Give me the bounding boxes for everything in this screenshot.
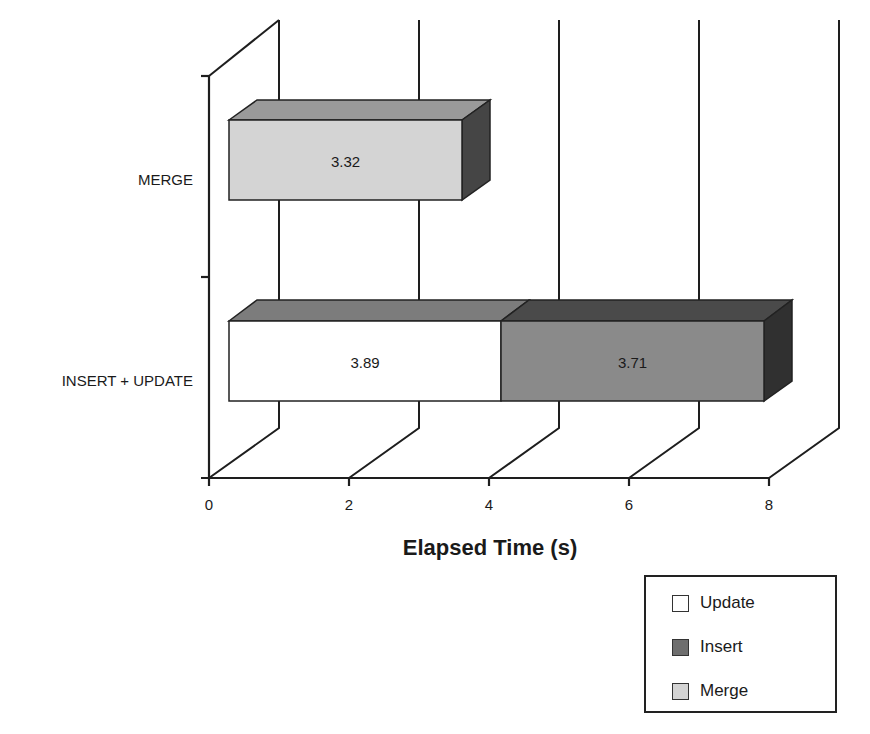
legend: Update Insert Merge — [644, 575, 837, 713]
legend-swatch-merge — [672, 683, 689, 700]
category-label-merge: MERGE — [3, 171, 193, 188]
bar-insert-update — [229, 300, 792, 401]
legend-item-merge: Merge — [672, 681, 748, 701]
bar-value-insert: 3.71 — [501, 354, 764, 371]
x-tick-2: 2 — [334, 496, 364, 513]
bar-value-update: 3.89 — [229, 354, 501, 371]
gridlines — [209, 20, 839, 478]
x-tick-4: 4 — [474, 496, 504, 513]
category-label-insert-update: INSERT + UPDATE — [3, 372, 193, 389]
legend-label-merge: Merge — [700, 681, 748, 701]
legend-swatch-update — [672, 595, 689, 612]
bar-merge-top — [229, 100, 490, 120]
x-tick-6: 6 — [614, 496, 644, 513]
bar-update-top — [229, 300, 529, 321]
bar-merge — [229, 100, 490, 200]
legend-label-insert: Insert — [700, 637, 743, 657]
legend-item-update: Update — [672, 593, 755, 613]
legend-item-insert: Insert — [672, 637, 743, 657]
x-axis-title: Elapsed Time (s) — [300, 535, 680, 561]
x-tick-8: 8 — [754, 496, 784, 513]
legend-swatch-insert — [672, 639, 689, 656]
x-tick-0: 0 — [194, 496, 224, 513]
legend-label-update: Update — [700, 593, 755, 613]
bar-value-merge: 3.32 — [229, 153, 462, 170]
bar-insert-top — [501, 300, 792, 321]
